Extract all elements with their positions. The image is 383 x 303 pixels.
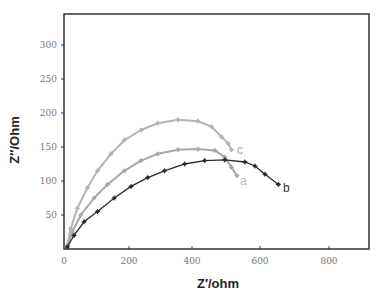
x-tick-label: 200 bbox=[120, 256, 137, 266]
series-a bbox=[65, 146, 240, 248]
y-tick-label: 200 bbox=[40, 108, 57, 118]
y-tick-label: 100 bbox=[40, 176, 57, 186]
y-tick-label: 300 bbox=[40, 40, 57, 50]
x-axis-title: Z′/ohm bbox=[197, 276, 239, 291]
y-axis: 50 100 150 200 250 300 bbox=[40, 40, 64, 220]
nyquist-chart: 50 100 150 200 250 300 0 200 400 600 800… bbox=[0, 0, 383, 303]
y-tick-label: 50 bbox=[46, 210, 58, 220]
series-label-b: b bbox=[283, 181, 290, 195]
x-tick-label: 800 bbox=[320, 256, 337, 266]
data-point bbox=[175, 117, 180, 122]
series-c bbox=[65, 117, 234, 248]
series-label-a: a bbox=[240, 174, 247, 188]
y-tick-label: 250 bbox=[40, 74, 57, 84]
x-tick-label: 400 bbox=[183, 256, 200, 266]
series-label-c: c bbox=[237, 143, 243, 157]
data-point bbox=[195, 146, 200, 151]
y-axis-title: Z″/Ohm bbox=[7, 116, 22, 163]
y-tick-label: 150 bbox=[40, 142, 57, 152]
series-layer bbox=[65, 117, 281, 249]
x-tick-label: 0 bbox=[61, 256, 67, 266]
x-tick-label: 600 bbox=[251, 256, 268, 266]
data-point bbox=[175, 147, 180, 152]
